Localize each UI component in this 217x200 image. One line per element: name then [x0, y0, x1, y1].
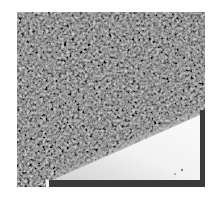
bottom-border	[48, 180, 205, 187]
speck	[174, 173, 176, 175]
texture-canvas	[17, 12, 205, 187]
micrograph-image	[17, 12, 205, 187]
scale-tick-marker	[46, 180, 49, 187]
speck	[181, 169, 183, 171]
right-border	[200, 110, 205, 187]
